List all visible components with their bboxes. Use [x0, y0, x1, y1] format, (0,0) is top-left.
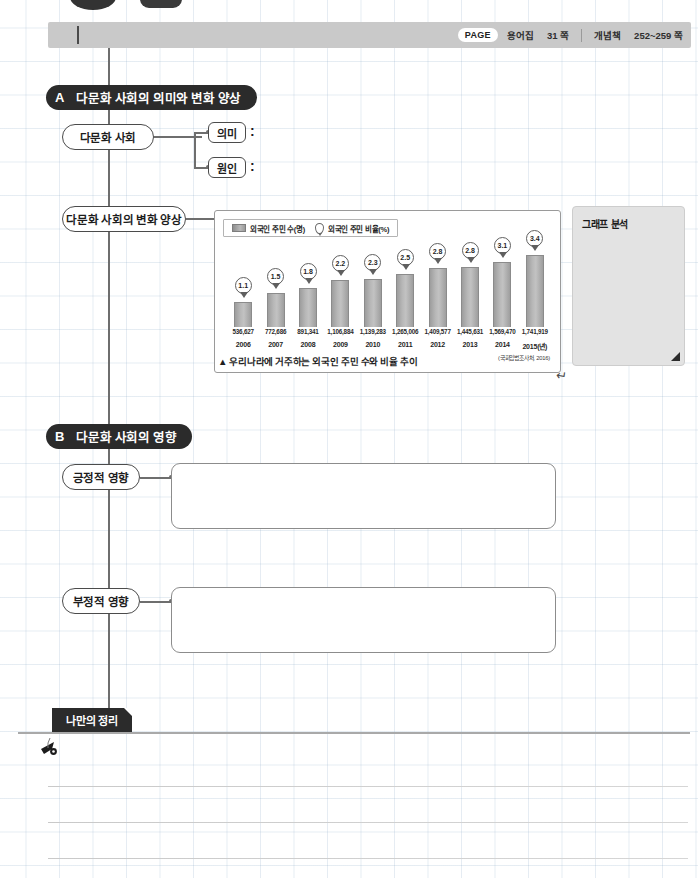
section-letter-a: A — [55, 90, 64, 105]
top-decoration-circle-icon — [70, 0, 116, 10]
ratio-pin-marker: 2.5 — [397, 249, 414, 266]
legend-label-ratio: 외국인 주민 비율(%) — [328, 223, 389, 234]
year-label: 2014 — [485, 341, 519, 348]
label-positive-effect: 긍정적 영향 — [62, 464, 140, 490]
ratio-pin-marker: 3.1 — [494, 237, 511, 254]
chart-legend: 외국인 주민 수(명) 외국인 주민 비율(%) — [223, 219, 398, 237]
page-fold-icon — [671, 352, 680, 361]
legend-item-count: 외국인 주민 수(명) — [232, 223, 305, 234]
write-line[interactable] — [48, 786, 688, 787]
bar-swatch-icon — [232, 224, 246, 232]
chart-card: 외국인 주민 수(명) 외국인 주민 비율(%) 1.11.51.82.22.3… — [214, 210, 561, 373]
bar-column: 2.5 — [396, 241, 414, 327]
ratio-pin-marker: 2.8 — [429, 243, 446, 260]
bar — [526, 255, 544, 327]
glossary-ref-value: 31 쪽 — [547, 28, 569, 42]
bar-column: 2.3 — [364, 241, 382, 327]
ratio-pin-marker: 3.4 — [526, 230, 543, 247]
connector-line — [186, 218, 214, 220]
ratio-pin-marker: 2.3 — [364, 254, 381, 271]
tab-fold-icon — [124, 708, 132, 716]
bar-value-label: 1,106,884 — [323, 328, 357, 335]
chart-category-labels: 2006200720082009201020112012201320142015… — [227, 341, 551, 353]
header-caret-icon — [77, 26, 79, 44]
note-section-tab: 나만의 정리 — [52, 708, 132, 732]
conceptbook-ref-label: 개념책 — [594, 28, 621, 42]
bar-value-label: 536,627 — [226, 328, 260, 335]
section-title-b: 다문화 사회의 영향 — [76, 427, 176, 446]
connector-line — [140, 601, 172, 603]
note-tab-label: 나만의 정리 — [66, 712, 117, 728]
bar-value-label: 1,265,006 — [388, 328, 422, 335]
legend-label-count: 외국인 주민 수(명) — [250, 223, 305, 234]
bar-value-label: 891,341 — [291, 328, 325, 335]
chart-source: (국회입법조사처, 2016) — [498, 353, 550, 362]
year-label: 2010 — [356, 341, 390, 348]
legend-item-ratio: 외국인 주민 비율(%) — [315, 223, 389, 234]
label-multicultural-society: 다문화 사회 — [62, 124, 154, 150]
bar-value-label: 1,741,919 — [518, 328, 552, 335]
bar-value-label: 772,686 — [259, 328, 293, 335]
colon-cause: : — [250, 158, 255, 174]
year-label: 2013 — [453, 341, 487, 348]
chart-value-labels: 536,627772,686891,3411,106,8841,139,2831… — [227, 328, 551, 340]
bar-value-label: 1,139,283 — [356, 328, 390, 335]
bar-value-label: 1,409,577 — [421, 328, 455, 335]
worksheet-page: PAGE 용어집 31 쪽 개념책 252~259 쪽 A 다문화 사회의 의미… — [0, 0, 698, 878]
bar — [267, 293, 285, 327]
glossary-ref-label: 용어집 — [507, 28, 534, 42]
bar — [234, 302, 252, 327]
section-header-b: B 다문화 사회의 영향 — [46, 424, 192, 449]
bar — [299, 288, 317, 327]
write-line[interactable] — [48, 858, 688, 859]
bar-column: 2.8 — [461, 241, 479, 327]
ratio-pin-marker: 2.8 — [462, 242, 479, 259]
bar-column: 1.5 — [267, 241, 285, 327]
answer-box-positive[interactable] — [171, 463, 556, 529]
year-label: 2008 — [291, 341, 325, 348]
bar — [461, 267, 479, 327]
bar — [364, 279, 382, 327]
note-section-rule — [18, 732, 690, 734]
graph-analysis-panel[interactable]: 그래프 분석 — [572, 206, 685, 366]
year-label: 2006 — [226, 341, 260, 348]
bar-value-label: 1,445,631 — [453, 328, 487, 335]
year-label: 2011 — [388, 341, 422, 348]
bar-column: 3.1 — [493, 241, 511, 327]
label-meaning: 의미 — [208, 122, 246, 143]
section-title-a: 다문화 사회의 의미와 변화 양상 — [76, 88, 241, 107]
section-letter-b: B — [55, 429, 64, 444]
curved-arrow-icon: ↵ — [555, 367, 568, 383]
year-label: 2012 — [421, 341, 455, 348]
year-label: 2015(년) — [518, 341, 552, 351]
label-cause: 원인 — [208, 157, 246, 178]
bar — [331, 280, 349, 327]
pen-icon — [38, 736, 66, 758]
top-decoration-pill-icon — [140, 0, 182, 8]
bar-column: 1.1 — [234, 241, 252, 327]
ratio-pin-marker: 1.1 — [235, 277, 252, 294]
page-chip: PAGE — [458, 28, 498, 43]
ratio-pin-marker: 1.5 — [267, 268, 284, 285]
graph-analysis-title: 그래프 분석 — [582, 216, 628, 231]
header-divider — [581, 29, 582, 42]
ratio-pin-marker: 1.8 — [300, 263, 317, 280]
label-change-pattern: 다문화 사회의 변화 양상 — [62, 206, 186, 232]
connector-line — [194, 132, 196, 168]
ratio-pin-marker: 2.2 — [332, 255, 349, 272]
pin-marker-icon — [315, 223, 324, 234]
year-label: 2009 — [323, 341, 357, 348]
label-negative-effect: 부정적 영향 — [62, 588, 140, 614]
colon-meaning: : — [250, 123, 255, 139]
answer-box-negative[interactable] — [171, 587, 556, 653]
bar — [396, 274, 414, 327]
year-label: 2007 — [259, 341, 293, 348]
bar-column: 3.4 — [526, 241, 544, 327]
bar — [429, 268, 447, 327]
header-bar: PAGE 용어집 31 쪽 개념책 252~259 쪽 — [48, 22, 691, 48]
bar-column: 2.2 — [331, 241, 349, 327]
write-line[interactable] — [48, 822, 688, 823]
connector-line — [140, 477, 172, 479]
section-header-a: A 다문화 사회의 의미와 변화 양상 — [46, 85, 257, 110]
conceptbook-ref-value: 252~259 쪽 — [634, 28, 683, 42]
